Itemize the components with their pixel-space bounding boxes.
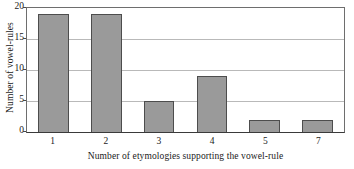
x-tick-label: 3 [132,135,185,149]
bar[interactable] [197,76,228,132]
x-axis-title: Number of etymologies supporting the vow… [26,150,345,162]
bar-slot [238,8,291,132]
x-tick-label: 4 [186,135,239,149]
bar-slot [185,8,238,132]
bar[interactable] [91,14,122,132]
x-axis-tick-labels: 123457 [26,135,345,149]
bars-container [27,8,344,132]
bar-chart-figure: Number of vowel-rules 20 15 10 5 0 12345… [0,0,354,169]
bar-slot [133,8,186,132]
bar-slot [27,8,80,132]
bar[interactable] [302,120,333,132]
x-tick-label: 7 [292,135,345,149]
x-tick-label: 2 [79,135,132,149]
x-tick-label: 5 [239,135,292,149]
bar[interactable] [144,101,175,132]
bar[interactable] [38,14,69,132]
y-axis-tick-labels: 20 15 10 5 0 [0,0,26,140]
bar-slot [80,8,133,132]
bar-slot [291,8,344,132]
x-tick-label: 1 [26,135,79,149]
bar[interactable] [249,120,280,132]
plot-area [26,7,345,133]
